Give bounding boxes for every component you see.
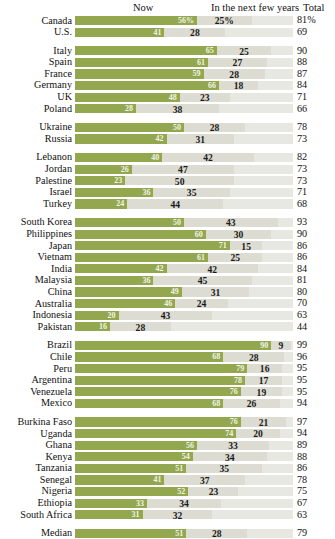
chart-row: Canada56%25%81% — [0, 15, 335, 27]
value-label-now: 74 — [208, 429, 233, 438]
chart-row: Venezuela761995 — [0, 386, 335, 398]
chart-row: Nigeria522375 — [0, 486, 335, 498]
value-label-now: 52 — [160, 487, 185, 496]
bar-track: 6828 — [75, 352, 293, 361]
value-label-now: 42 — [139, 264, 164, 273]
country-label: Median — [0, 527, 72, 539]
value-label-now: 59 — [176, 69, 201, 78]
chart-row: South Africa313263 — [0, 509, 335, 521]
value-label-next: 42 — [201, 264, 223, 275]
chart-group-north-america: Canada56%25%81%U.S.412869 — [0, 15, 335, 38]
value-label-now: 79 — [219, 364, 244, 373]
country-label: Australia — [0, 298, 72, 310]
value-label-next: 28 — [184, 27, 206, 38]
country-label: Lebanon — [0, 151, 72, 163]
total-value: 94 — [297, 427, 333, 439]
value-label-now: 71 — [202, 241, 227, 250]
country-label: Argentina — [0, 374, 72, 386]
bar-track: 6618 — [75, 81, 293, 90]
country-label: Ghana — [0, 439, 72, 451]
value-label-next: 21 — [253, 417, 275, 428]
value-label-next: 47 — [172, 164, 194, 175]
value-label-now: 41 — [136, 28, 161, 37]
value-label-now: 90 — [243, 341, 268, 350]
column-header-now: Now — [133, 2, 153, 13]
bar-track: 5928 — [75, 69, 293, 78]
country-label: Senegal — [0, 474, 72, 486]
value-label-now: 61 — [180, 253, 205, 262]
chart-row: Israel363571 — [0, 187, 335, 199]
total-value: 70 — [297, 297, 333, 309]
value-label-next: 28 — [129, 322, 151, 333]
value-label-now: 41 — [136, 475, 161, 484]
value-label-next: 32 — [166, 510, 188, 521]
total-value: 95 — [297, 374, 333, 386]
country-label: Chile — [0, 351, 72, 363]
value-label-next: 35 — [213, 463, 235, 474]
value-label-now: 66 — [191, 81, 216, 90]
value-label-next: 25 — [233, 46, 255, 57]
chart-row: Palestine235073 — [0, 175, 335, 187]
bar-track: 5028 — [75, 123, 293, 132]
total-value: 71 — [297, 91, 333, 103]
total-value: 89 — [297, 439, 333, 451]
chart-group-europe: Italy652590Spain612788France592887German… — [0, 45, 335, 115]
bar-track: 4042 — [75, 153, 293, 162]
country-label: Russia — [0, 133, 72, 145]
bar-track: 1628 — [75, 322, 293, 331]
total-value: 78 — [297, 121, 333, 133]
value-label-now: 68 — [195, 352, 220, 361]
country-label: Brazil — [0, 339, 72, 351]
bar-track: 4231 — [75, 134, 293, 143]
bar-track: 909 — [75, 341, 293, 350]
total-value: 88 — [297, 56, 333, 68]
country-label: Italy — [0, 45, 72, 57]
chart-row: Mexico682694 — [0, 398, 335, 410]
total-value: 84 — [297, 79, 333, 91]
bar-track: 7916 — [75, 364, 293, 373]
chart-row: Ghana563389 — [0, 440, 335, 452]
chart-row: Australia462470 — [0, 298, 335, 310]
bar-track: 4823 — [75, 93, 293, 102]
chart-row: Japan711586 — [0, 240, 335, 252]
country-label: Spain — [0, 56, 72, 68]
value-label-now: 28 — [108, 104, 133, 113]
total-value: 68 — [297, 198, 333, 210]
value-label-now: 50 — [156, 218, 181, 227]
chart-row: Italy652590 — [0, 45, 335, 57]
total-value: 96 — [297, 351, 333, 363]
chart-row: South Korea504393 — [0, 217, 335, 229]
value-label-now: 65 — [189, 46, 214, 55]
total-value: 90 — [297, 228, 333, 240]
bar-track: 4242 — [75, 264, 293, 273]
chart-row: UK482371 — [0, 92, 335, 104]
country-label: Germany — [0, 79, 72, 91]
bar-track: 6125 — [75, 253, 293, 262]
chart-row: India424284 — [0, 263, 335, 275]
value-label-now: 31 — [115, 510, 140, 519]
column-header-next: In the next few years — [211, 2, 299, 13]
chart-row: Malaysia364581 — [0, 275, 335, 287]
chart-row: Kenya543488 — [0, 451, 335, 463]
value-label-next: 20 — [247, 428, 269, 439]
value-label-next: 38 — [166, 104, 188, 115]
chart-row: Philippines603090 — [0, 229, 335, 241]
country-label: UK — [0, 91, 72, 103]
total-value: 94 — [297, 397, 333, 409]
value-label-now: 23 — [97, 176, 122, 185]
value-label-next: 18 — [228, 80, 250, 91]
value-label-now: 50 — [156, 123, 181, 132]
bar-track: 7621 — [75, 417, 293, 426]
bar-track: 5223 — [75, 487, 293, 496]
total-value: 97 — [297, 416, 333, 428]
value-label-now: 54 — [165, 452, 190, 461]
chart-group-median: Median512879 — [0, 528, 335, 539]
bar-track: 6525 — [75, 46, 293, 55]
value-label-next: 43 — [154, 310, 176, 321]
chart-row: Argentina781795 — [0, 375, 335, 387]
bar-track: 3645 — [75, 276, 293, 285]
chart-row: France592887 — [0, 68, 335, 80]
bar-track: 2444 — [75, 199, 293, 208]
value-label-now: 16 — [82, 322, 107, 331]
chart-row: Senegal413778 — [0, 474, 335, 486]
